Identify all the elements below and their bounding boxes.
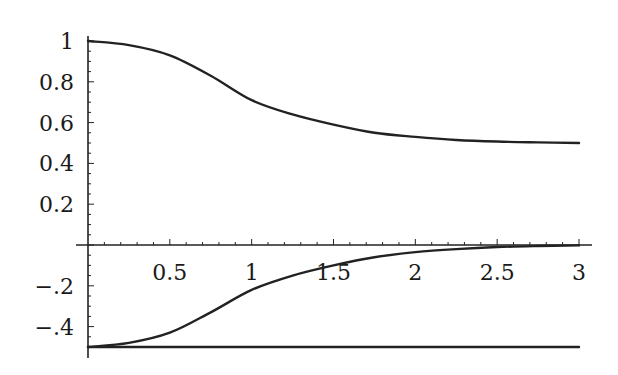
curve-upper [88, 41, 579, 143]
x-tick-label: 1 [245, 260, 259, 285]
y-tick-label: −.2 [35, 274, 74, 299]
axis-ticks [88, 41, 579, 347]
x-tick-label: 2.5 [480, 260, 515, 285]
line-chart: 0.511.522.5310.80.60.40.2−.2−.4 [0, 0, 618, 375]
y-tick-label: −.4 [35, 315, 74, 340]
y-tick-label: 1 [60, 29, 74, 54]
y-tick-label: 0.8 [39, 70, 74, 95]
y-tick-label: 0.4 [39, 151, 74, 176]
y-tick-label: 0.6 [39, 111, 74, 136]
x-tick-label: 0.5 [152, 260, 187, 285]
axes [76, 36, 592, 358]
tick-labels: 0.511.522.5310.80.60.40.2−.2−.4 [35, 29, 586, 340]
data-curves [88, 41, 579, 347]
x-tick-label: 2 [408, 260, 422, 285]
y-tick-label: 0.2 [39, 192, 74, 217]
x-tick-label: 3 [572, 260, 586, 285]
